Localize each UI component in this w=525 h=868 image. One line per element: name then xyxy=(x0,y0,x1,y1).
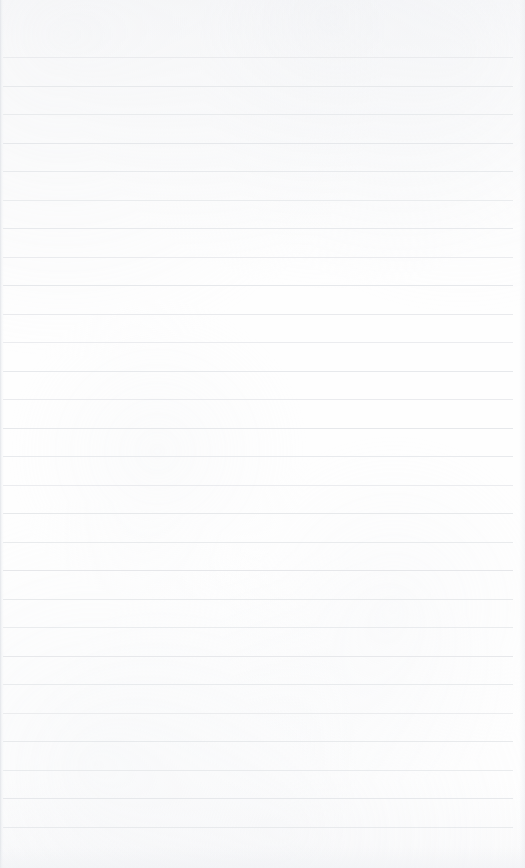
ruled-line xyxy=(3,627,513,628)
ruled-line xyxy=(3,285,513,286)
ruled-line xyxy=(3,57,513,58)
notebook-page xyxy=(0,0,525,868)
ruled-line xyxy=(3,228,513,229)
ruled-line xyxy=(3,542,513,543)
ruled-line xyxy=(3,200,513,201)
ruled-line xyxy=(3,314,513,315)
ruled-line xyxy=(3,342,513,343)
ruled-line xyxy=(3,513,513,514)
ruled-line xyxy=(3,741,513,742)
ruled-line xyxy=(3,798,513,799)
ruled-line xyxy=(3,713,513,714)
ruled-line xyxy=(3,599,513,600)
ruled-line xyxy=(3,114,513,115)
ruled-line xyxy=(3,399,513,400)
ruled-line xyxy=(3,656,513,657)
ruled-line xyxy=(3,570,513,571)
ruled-line xyxy=(3,827,513,828)
ruled-line xyxy=(3,456,513,457)
ruled-line xyxy=(3,257,513,258)
ruled-line xyxy=(3,171,513,172)
ruled-line xyxy=(3,770,513,771)
ruled-line xyxy=(3,143,513,144)
ruled-line xyxy=(3,86,513,87)
ruled-lines-layer xyxy=(0,0,525,868)
ruled-line xyxy=(3,684,513,685)
ruled-line xyxy=(3,428,513,429)
ruled-line xyxy=(3,371,513,372)
ruled-line xyxy=(3,485,513,486)
